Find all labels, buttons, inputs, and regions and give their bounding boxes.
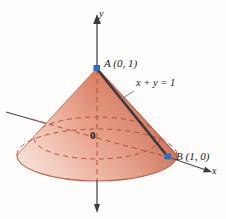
origin-label: 0 xyxy=(90,129,96,141)
axis-x-label: x xyxy=(212,165,216,176)
figure-canvas xyxy=(0,0,226,219)
axis-x-arrow xyxy=(203,167,212,173)
axis-y-label: y xyxy=(99,8,103,19)
cone-figure: y x A (0, 1) B (1, 0) x + y = 1 0 xyxy=(0,0,226,219)
point-a-label: A (0, 1) xyxy=(104,57,137,69)
point-b-label: B (1, 0) xyxy=(176,150,209,162)
marker-point-a xyxy=(94,65,101,71)
line-equation-label: x + y = 1 xyxy=(136,77,175,88)
marker-point-b xyxy=(165,154,172,160)
axis-y-lower-arrow xyxy=(94,204,100,213)
